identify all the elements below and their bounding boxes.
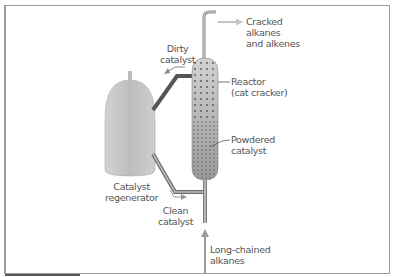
label-catalyst-regenerator: Catalyst regenerator [105,181,158,203]
label-powdered-catalyst: Powdered catalyst [231,134,275,156]
dirty-catalyst-pipe [153,76,194,110]
label-feed-alkanes: Long-chained alkanes [210,244,270,266]
label-clean-catalyst: Clean catalyst [158,205,193,227]
catalyst-regenerator-vessel [105,71,155,176]
catalytic-cracking-diagram [0,0,395,277]
label-cracked-products: Cracked alkanes and alkenes [246,16,300,49]
label-reactor: Reactor (cat cracker) [231,76,287,98]
label-dirty-catalyst: Dirty catalyst [160,43,195,65]
feed-arrow-icon [201,229,209,273]
output-arrow-icon [218,19,243,26]
dirty-catalyst-arrow-icon [164,67,185,74]
